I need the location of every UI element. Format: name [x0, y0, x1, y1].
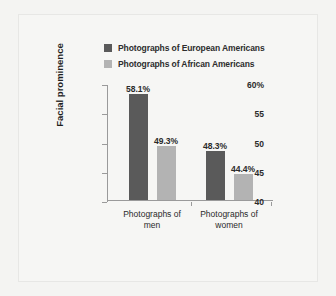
bar [157, 146, 176, 200]
legend-item-european-americans: Photographs of European Americans [104, 41, 314, 54]
y-axis-tick-label: 50 [255, 139, 264, 149]
y-axis-tick [102, 114, 107, 115]
bar-value-label: 48.3% [203, 141, 227, 151]
y-axis-tick-label: 45 [255, 168, 264, 178]
y-axis-tick [102, 202, 107, 203]
x-axis-tick [271, 202, 272, 206]
y-axis-tick [102, 85, 107, 86]
chart-legend: Photographs of European Americans Photog… [104, 41, 314, 73]
legend-swatch-icon [104, 44, 112, 52]
plot-area: 60%55504540 58.1%49.3%48.3%44.4% Photogr… [107, 85, 272, 201]
bar [129, 94, 148, 200]
bar [234, 174, 253, 200]
x-axis-line [107, 200, 273, 201]
legend-swatch-icon [104, 60, 112, 68]
bar-value-label: 44.4% [231, 164, 255, 174]
y-axis-tick-label: 40 [255, 197, 264, 207]
y-axis-line [107, 85, 108, 202]
legend-item-label: Photographs of African Americans [118, 59, 254, 69]
chart-figure: Photographs of European Americans Photog… [0, 0, 336, 296]
x-axis-tick [191, 202, 192, 206]
legend-item-label: Photographs of European Americans [118, 43, 265, 53]
bar [206, 151, 225, 200]
y-axis-tick-label: 60% [247, 80, 264, 90]
x-axis-category-label: Photographs ofwomen [183, 209, 275, 231]
y-axis-tick-label: 55 [255, 109, 264, 119]
bar-value-label: 49.3% [154, 136, 178, 146]
legend-item-african-americans: Photographs of African Americans [104, 57, 314, 70]
y-axis-title: Facial prominence [54, 20, 68, 150]
bar-value-label: 58.1% [126, 84, 150, 94]
y-axis-tick [102, 144, 107, 145]
y-axis-tick [102, 173, 107, 174]
